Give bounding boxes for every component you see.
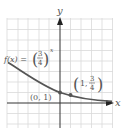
x-axis-label: x bbox=[115, 97, 121, 108]
y-axis-label: y bbox=[56, 5, 63, 16]
point-label-1-three-quarters: ( 1, 3 4 ) bbox=[73, 75, 103, 94]
svg-text:4: 4 bbox=[90, 84, 95, 92]
point-label-0-1: (0, 1) bbox=[30, 93, 52, 102]
svg-text:(: ( bbox=[73, 75, 79, 94]
function-label: f(x) = ( 3 4 ) x bbox=[3, 46, 54, 69]
svg-text:f(x) =: f(x) = bbox=[3, 55, 27, 64]
svg-text:): ) bbox=[97, 75, 103, 94]
svg-text:3: 3 bbox=[90, 75, 94, 83]
svg-text:1,: 1, bbox=[80, 79, 88, 88]
y-axis-arrow-icon bbox=[57, 17, 63, 25]
svg-text:x: x bbox=[50, 46, 54, 53]
point-1-three-quarters bbox=[69, 93, 73, 97]
svg-text:): ) bbox=[43, 50, 49, 69]
svg-text:3: 3 bbox=[38, 50, 42, 58]
point-0-1 bbox=[58, 91, 62, 95]
exponential-graph: y x f(x) = ( 3 4 ) x (0, 1) ( 1, 3 4 ) bbox=[0, 0, 127, 128]
